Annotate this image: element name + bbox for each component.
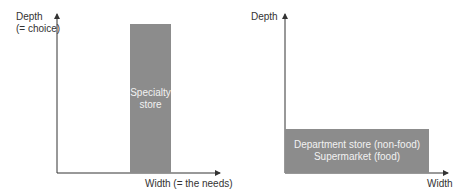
bar-label-line2: Supermarket (food)	[294, 151, 420, 163]
bar-label-line1: Specialty	[130, 87, 171, 99]
specialty-store-bar: Specialty store	[130, 24, 171, 173]
y-label-line1: Depth	[16, 11, 60, 23]
left-x-axis-label: Width (= the needs)	[145, 178, 233, 190]
department-store-bar: Department store (non-food) Supermarket …	[285, 129, 429, 173]
right-x-axis-label: Width	[427, 178, 453, 190]
bar-label-line1: Department store (non-food)	[294, 139, 420, 151]
right-y-axis-label: Depth	[251, 11, 278, 23]
left-y-axis-label: Depth (= choice)	[16, 11, 60, 35]
y-label-line2: (= choice)	[16, 23, 60, 35]
bar-label-line2: store	[130, 99, 171, 111]
